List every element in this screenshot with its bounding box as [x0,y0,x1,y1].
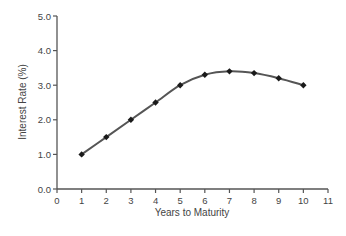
series-yield-curve [78,68,306,157]
diamond-marker [202,72,208,78]
y-axis-title: Interest Rate (%) [17,64,28,140]
y-tick-label: 4.0 [38,45,51,56]
y-tick-label: 3.0 [38,80,51,91]
y-axis: 0.01.02.03.04.05.0 [38,11,57,195]
x-tick-label: 1 [79,195,84,206]
series-line [82,71,304,154]
x-tick-label: 5 [178,195,183,206]
diamond-marker [276,75,282,81]
x-tick-label: 8 [251,195,256,206]
x-axis: 01234567891011 [54,189,333,206]
y-tick-label: 1.0 [38,149,51,160]
x-tick-label: 6 [202,195,207,206]
x-tick-label: 0 [54,195,59,206]
x-tick-label: 3 [128,195,133,206]
x-tick-label: 10 [298,195,309,206]
x-axis-title: Years to Maturity [155,207,230,218]
x-tick-label: 4 [153,195,158,206]
y-tick-label: 0.0 [38,184,51,195]
diamond-marker [300,82,306,88]
x-tick-label: 7 [227,195,232,206]
diamond-marker [226,68,232,74]
x-tick-label: 11 [323,195,333,206]
y-tick-label: 2.0 [38,114,51,125]
diamond-marker [251,70,257,76]
x-tick-label: 9 [276,195,281,206]
x-tick-label: 2 [104,195,109,206]
y-tick-label: 5.0 [38,11,51,22]
line-chart: 0.01.02.03.04.05.0 01234567891011 Years … [0,0,346,236]
